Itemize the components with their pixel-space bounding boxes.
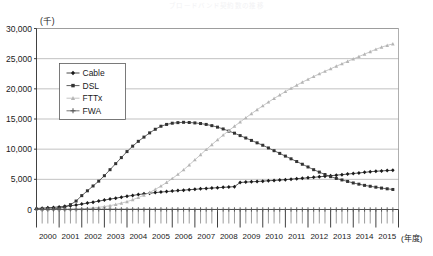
x-tick-label: 2002 bbox=[84, 232, 102, 241]
series-fwa bbox=[34, 207, 395, 212]
x-tick-label: 2003 bbox=[107, 232, 125, 241]
x-tick-label: 2004 bbox=[129, 232, 147, 241]
y-tick-label: 10,000 bbox=[6, 144, 32, 154]
legend-label: FTTx bbox=[83, 93, 104, 103]
legend-label: DSL bbox=[83, 81, 100, 91]
x-tick-label: 2013 bbox=[333, 232, 351, 241]
plot-area: 05,00010,00015,00020,00025,00030,000 200… bbox=[0, 0, 433, 256]
x-tick-label: 2006 bbox=[175, 232, 193, 241]
x-tick-label: 2000 bbox=[39, 232, 57, 241]
y-tick-label: 25,000 bbox=[6, 54, 32, 64]
x-tick-label: 2014 bbox=[356, 232, 374, 241]
broadband-subscribers-line-chart: ブロードバンド契約数の推移 (千) (年度) 05,00010,00015,00… bbox=[0, 0, 433, 256]
y-tick-label: 30,000 bbox=[6, 24, 32, 34]
legend-label: FWA bbox=[83, 106, 102, 116]
x-tick-label: 2015 bbox=[378, 232, 396, 241]
y-axis-tick-labels: 05,00010,00015,00020,00025,00030,000 bbox=[6, 24, 37, 215]
y-tick-label: 15,000 bbox=[6, 114, 32, 124]
x-axis-ticks bbox=[37, 210, 399, 228]
x-tick-label: 2001 bbox=[62, 232, 80, 241]
x-tick-label: 2012 bbox=[310, 232, 328, 241]
legend-label: Cable bbox=[83, 68, 105, 78]
x-axis-tick-labels: 2000200120022003200420052006200720082009… bbox=[39, 232, 397, 241]
x-tick-label: 2007 bbox=[197, 232, 215, 241]
x-tick-label: 2008 bbox=[220, 232, 238, 241]
series-dsl bbox=[35, 121, 394, 211]
y-tick-label: 20,000 bbox=[6, 84, 32, 94]
x-tick-label: 2011 bbox=[288, 232, 306, 241]
chart-legend: CableDSLFTTxFWA bbox=[60, 64, 126, 120]
x-tick-label: 2009 bbox=[243, 232, 261, 241]
y-tick-label: 0 bbox=[27, 205, 32, 215]
x-tick-label: 2010 bbox=[265, 232, 283, 241]
x-tick-label: 2005 bbox=[152, 232, 170, 241]
y-tick-label: 5,000 bbox=[11, 174, 33, 184]
